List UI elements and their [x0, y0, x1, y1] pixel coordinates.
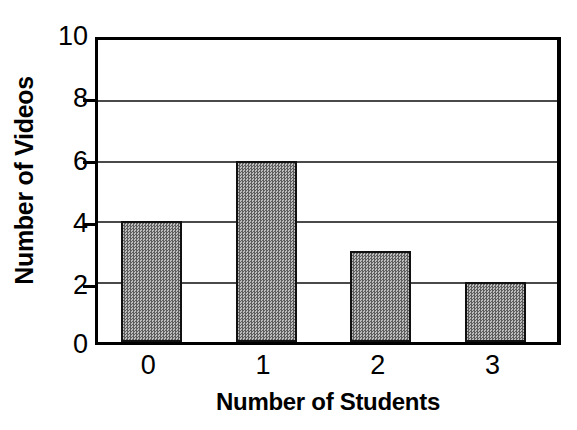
bar-category-2	[350, 251, 411, 342]
y-tickmark-4	[83, 223, 95, 226]
y-tickmark-8	[83, 99, 95, 102]
y-axis-title: Number of Videos	[0, 0, 48, 360]
y-tick-label-2: 2	[44, 272, 88, 299]
plot-area	[95, 37, 561, 345]
x-tick-label-2: 2	[347, 352, 408, 379]
bar-category-3	[465, 282, 526, 342]
x-tick-label-3: 3	[462, 352, 523, 379]
bar-category-0	[121, 221, 182, 342]
y-tickmark-6	[83, 161, 95, 164]
x-axis-tick-labels: 0 1 2 3	[95, 352, 561, 388]
y-tick-label-10: 10	[44, 23, 88, 50]
y-tickmark-2	[83, 285, 95, 288]
y-axis-title-text: Number of Videos	[10, 76, 39, 285]
gridline-4	[98, 161, 557, 163]
y-tick-label-4: 4	[44, 210, 88, 237]
y-tick-label-8: 8	[44, 85, 88, 112]
x-tick-label-0: 0	[118, 352, 179, 379]
y-axis-tick-labels: 10 8 6 4 2 0	[44, 0, 88, 430]
gridline-2	[98, 100, 557, 102]
y-tick-label-0: 0	[44, 331, 88, 358]
x-axis-title: Number of Students	[95, 388, 561, 416]
y-tick-label-6: 6	[44, 148, 88, 175]
x-tick-label-1: 1	[233, 352, 294, 379]
bar-chart: Number of Videos 10 8 6 4 2 0 0 1 2 3 Nu…	[0, 0, 577, 430]
bar-category-1	[236, 161, 297, 342]
